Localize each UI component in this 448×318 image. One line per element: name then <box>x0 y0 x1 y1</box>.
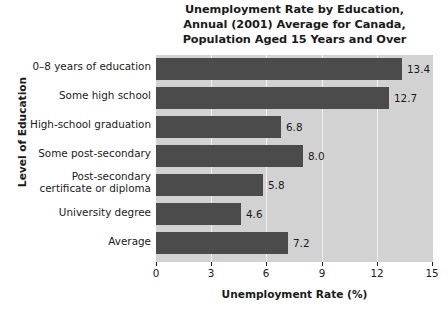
x-axis: 0 3 6 9 12 15 <box>156 262 433 286</box>
x-axis-title: Unemployment Rate (%) <box>156 288 433 300</box>
y-tick-label-2-line-1: High-school graduation <box>30 118 151 130</box>
bar-value-1: 12.7 <box>389 92 417 104</box>
plot-area: 13.4 12.7 6.8 8.0 5.8 4.6 7.2 <box>156 55 433 262</box>
y-tick-label-4: Post-secondary certificate or diploma <box>28 170 151 195</box>
bar-5 <box>156 203 241 225</box>
x-tick-3 <box>211 262 212 266</box>
x-tick-label-6: 6 <box>251 267 281 279</box>
bar-value-4: 5.8 <box>263 179 285 191</box>
y-tick-label-6: Average <box>28 235 151 247</box>
x-tick-6 <box>266 262 267 266</box>
bar-4 <box>156 174 263 196</box>
bar-value-0: 13.4 <box>402 63 430 75</box>
chart-figure: Unemployment Rate by Education, Annual (… <box>0 0 448 318</box>
y-tick-label-2: High-school graduation <box>28 118 151 130</box>
chart-title-line-1: Unemployment Rate by Education, <box>156 2 433 17</box>
y-tick-label-1-line-1: Some high school <box>59 89 151 101</box>
chart-title-line-2: Annual (2001) Average for Canada, <box>156 17 433 32</box>
x-tick-9 <box>322 262 323 266</box>
bar-value-6: 7.2 <box>288 237 310 249</box>
x-tick-label-0: 0 <box>141 267 171 279</box>
y-tick-label-0-line-1: 0–8 years of education <box>33 60 152 72</box>
bar-value-2: 6.8 <box>281 121 303 133</box>
y-tick-label-3: Some post-secondary <box>28 147 151 159</box>
bar-2 <box>156 116 281 138</box>
y-tick-label-5-line-1: University degree <box>59 206 151 218</box>
y-tick-label-5: University degree <box>28 206 151 218</box>
x-tick-15 <box>432 262 433 266</box>
y-tick-label-4-line-1: Post-secondary <box>72 170 151 182</box>
y-tick-label-6-line-1: Average <box>108 235 151 247</box>
y-tick-label-3-line-1: Some post-secondary <box>38 147 151 159</box>
bar-0 <box>156 58 402 80</box>
y-axis-title: Level of Education <box>16 67 28 197</box>
x-tick-label-12: 12 <box>362 267 392 279</box>
bar-value-3: 8.0 <box>303 150 325 162</box>
bar-3 <box>156 145 303 167</box>
y-tick-label-1: Some high school <box>28 89 151 101</box>
x-tick-label-15: 15 <box>417 267 447 279</box>
bar-1 <box>156 87 389 109</box>
bar-6 <box>156 232 288 254</box>
x-tick-12 <box>377 262 378 266</box>
x-tick-0 <box>156 262 157 266</box>
chart-title-line-3: Population Aged 15 Years and Over <box>156 32 433 47</box>
chart-title: Unemployment Rate by Education, Annual (… <box>156 2 433 48</box>
x-tick-label-3: 3 <box>196 267 226 279</box>
y-tick-label-4-line-2: certificate or diploma <box>28 182 151 194</box>
bar-value-5: 4.6 <box>241 208 263 220</box>
x-tick-label-9: 9 <box>307 267 337 279</box>
y-tick-label-0: 0–8 years of education <box>28 60 151 72</box>
